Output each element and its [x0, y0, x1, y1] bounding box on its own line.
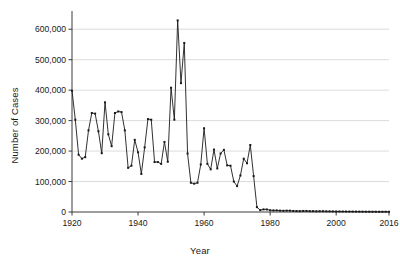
y-tick-label: 500,000: [35, 55, 66, 65]
data-point-marker: [239, 174, 241, 176]
y-tick-label: 100,000: [35, 177, 66, 187]
data-point-marker: [272, 209, 274, 211]
data-point-marker: [335, 210, 337, 212]
data-point-marker: [187, 153, 189, 155]
data-point-marker: [276, 209, 278, 211]
data-point-marker: [319, 210, 321, 212]
data-point-marker: [329, 210, 331, 212]
data-point-marker: [362, 211, 364, 213]
data-point-marker: [365, 211, 367, 213]
data-point-marker: [210, 168, 212, 170]
x-tick-label: 1940: [128, 218, 147, 228]
data-point-marker: [111, 145, 113, 147]
data-point-marker: [104, 101, 106, 103]
data-point-marker: [91, 112, 93, 114]
data-point-marker: [183, 42, 185, 44]
data-point-marker: [190, 182, 192, 184]
x-tick-label: 2000: [327, 218, 346, 228]
data-point-marker: [150, 119, 152, 121]
data-point-marker: [74, 119, 76, 121]
data-point-marker: [243, 158, 245, 160]
data-point-marker: [325, 210, 327, 212]
x-tick-label: 2016: [379, 218, 398, 228]
data-point-marker: [368, 211, 370, 213]
data-point-marker: [220, 153, 222, 155]
data-point-marker: [358, 211, 360, 213]
data-point-marker: [71, 90, 73, 92]
data-point-marker: [302, 210, 304, 212]
y-tick-label: 0: [61, 207, 66, 217]
data-point-marker: [107, 133, 109, 135]
data-point-marker: [154, 161, 156, 163]
data-point-marker: [286, 210, 288, 212]
data-point-marker: [84, 156, 86, 158]
data-point-marker: [352, 211, 354, 213]
x-tick-label: 1960: [195, 218, 214, 228]
data-point-marker: [269, 209, 271, 211]
data-point-marker: [282, 210, 284, 212]
x-tick-marks-group: [72, 212, 389, 216]
data-point-marker: [236, 185, 238, 187]
data-point-marker: [124, 129, 126, 131]
chart-figure: Number of Cases Year 0100,000200,000300,…: [0, 0, 400, 270]
data-point-marker: [137, 151, 139, 153]
data-point-marker: [230, 165, 232, 167]
data-point-marker: [206, 163, 208, 165]
data-point-marker: [130, 165, 132, 167]
data-point-marker: [157, 161, 159, 163]
y-tick-marks-group: [69, 29, 73, 212]
data-point-marker: [266, 208, 268, 210]
data-point-marker: [381, 211, 383, 213]
data-point-marker: [263, 208, 265, 210]
data-point-marker: [378, 211, 380, 213]
data-point-marker: [315, 210, 317, 212]
y-tick-label: 300,000: [35, 116, 66, 126]
data-point-marker: [88, 129, 90, 131]
data-point-marker: [117, 110, 119, 112]
data-point-marker: [388, 211, 390, 213]
data-point-marker: [196, 182, 198, 184]
data-point-marker: [332, 210, 334, 212]
data-point-marker: [226, 164, 228, 166]
data-point-marker: [170, 87, 172, 89]
data-point-marker: [338, 210, 340, 212]
data-point-marker: [246, 162, 248, 164]
data-point-marker: [203, 127, 205, 129]
data-point-marker: [305, 210, 307, 212]
data-point-marker: [259, 209, 261, 211]
data-point-marker: [173, 119, 175, 121]
data-point-marker: [193, 183, 195, 185]
y-tick-label: 400,000: [35, 85, 66, 95]
data-series-markers-group: [71, 19, 390, 212]
x-tick-label: 1980: [261, 218, 280, 228]
data-point-marker: [127, 167, 129, 169]
data-point-marker: [81, 158, 83, 160]
data-point-marker: [121, 111, 123, 113]
data-point-marker: [160, 163, 162, 165]
data-point-marker: [114, 112, 116, 114]
data-point-marker: [289, 210, 291, 212]
data-point-marker: [292, 210, 294, 212]
data-point-marker: [180, 82, 182, 84]
data-point-marker: [147, 118, 149, 120]
y-tick-label: 200,000: [35, 146, 66, 156]
data-point-marker: [385, 211, 387, 213]
data-point-marker: [309, 210, 311, 212]
data-point-marker: [371, 211, 373, 213]
data-point-marker: [177, 19, 179, 21]
data-point-marker: [134, 139, 136, 141]
data-point-marker: [78, 154, 80, 156]
data-point-marker: [345, 211, 347, 213]
data-point-marker: [140, 173, 142, 175]
data-point-marker: [279, 210, 281, 212]
data-point-marker: [94, 113, 96, 115]
data-point-marker: [101, 152, 103, 154]
data-point-marker: [348, 211, 350, 213]
data-point-marker: [322, 210, 324, 212]
y-tick-label: 600,000: [35, 24, 66, 34]
data-point-marker: [216, 167, 218, 169]
data-point-marker: [223, 149, 225, 151]
data-point-marker: [375, 211, 377, 213]
line-chart-plot: 0100,000200,000300,000400,000500,000600,…: [0, 0, 400, 270]
data-point-marker: [312, 210, 314, 212]
